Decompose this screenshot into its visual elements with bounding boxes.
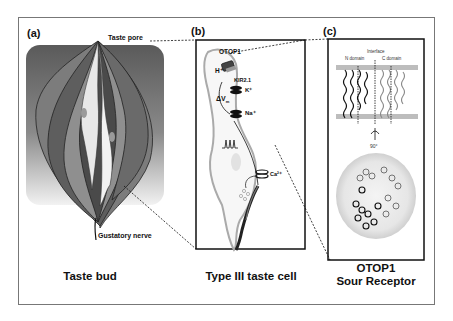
caption-line-otop1: OTOP1 [326, 262, 426, 275]
panel-a-caption: Taste bud [40, 270, 140, 282]
caption-line-sour-receptor: Sour Receptor [326, 275, 426, 288]
panel-c-caption: OTOP1 Sour Receptor [326, 262, 426, 288]
panel-b-letter: (b) [191, 25, 205, 37]
kir21-label: KIR2.1 [234, 77, 251, 83]
otop1-structure-illustration [336, 60, 418, 239]
potassium-label: K⁺ [245, 86, 252, 93]
calcium-label: Ca²⁺ [270, 171, 282, 177]
n-domain-label: N domain [345, 56, 364, 61]
proton-label: H⁺ [215, 67, 224, 75]
membrane-voltage-label: ΔVm [216, 95, 229, 104]
taste-pore-label: Taste pore [108, 34, 143, 41]
sodium-label: Na⁺ [245, 109, 256, 116]
c-domain-label: C domain [382, 56, 401, 61]
panel-c-letter: (c) [323, 25, 336, 37]
gustatory-nerve-label: Gustatory nerve [98, 232, 152, 239]
taste-bud-illustration [26, 41, 164, 240]
panel-a-letter: (a) [27, 27, 40, 39]
interface-label: Interface [367, 49, 385, 54]
rotation-label: 90° [370, 143, 378, 149]
panel-b-caption: Type III taste cell [186, 270, 316, 282]
otop1-label: OTOP1 [219, 48, 241, 55]
